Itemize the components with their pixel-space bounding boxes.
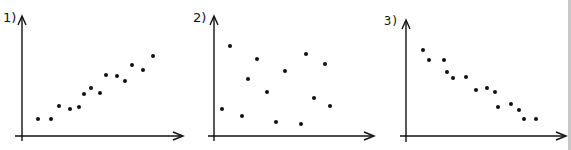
panel-3-points [421,48,538,121]
data-point [323,62,327,66]
scatter-plots-figure: 1) 2) 3) [0,0,571,150]
data-point [493,90,497,94]
data-point [274,120,278,124]
data-point [98,91,102,95]
panel-3-label: 3) [384,14,398,28]
data-point [283,69,287,73]
data-point [442,58,446,62]
panel-2: 2) [193,10,374,141]
data-point [304,52,308,56]
data-point [328,104,332,108]
data-point [115,74,119,78]
data-point [464,75,468,79]
data-point [130,63,134,67]
data-point [517,108,521,112]
data-point [82,92,86,96]
data-point [246,77,250,81]
panel-1-points [36,54,155,121]
data-point [509,102,513,106]
data-point [89,86,93,90]
data-point [255,57,259,61]
data-point [77,105,81,109]
data-point [49,117,53,121]
data-point [534,117,538,121]
panel-1: 1) [3,10,183,141]
data-point [474,88,478,92]
data-point [312,96,316,100]
data-point [299,122,303,126]
data-point [427,58,431,62]
data-point [445,70,449,74]
data-point [451,76,455,80]
panel-1-label: 1) [3,10,16,25]
data-point [36,117,40,121]
data-point [104,73,108,77]
data-point [123,79,127,83]
panel-2-points [220,44,332,126]
data-point [141,68,145,72]
data-point [485,86,489,90]
data-point [522,117,526,121]
data-point [421,48,425,52]
data-point [68,107,72,111]
panel-3: 3) [384,14,566,142]
data-point [220,107,224,111]
panel-2-label: 2) [193,10,206,25]
data-point [240,114,244,118]
data-point [57,104,61,108]
data-point [496,105,500,109]
data-point [228,44,232,48]
data-point [265,90,269,94]
data-point [151,54,155,58]
